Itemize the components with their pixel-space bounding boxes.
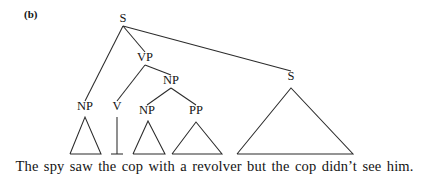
triangle-subject-np — [70, 117, 101, 154]
tree-diagram-svg: SVPNPNPVNPPPS — [0, 0, 429, 177]
triangle-object-np — [133, 121, 165, 154]
node-label-pp: PP — [189, 103, 203, 117]
tree-branch-s-to-vp — [123, 26, 145, 52]
node-label-subj-np: NP — [77, 99, 93, 113]
tree-branch-vp-to-v — [117, 65, 145, 101]
syntax-tree-figure: (b) SVPNPNPVNPPPS The spy saw the cop wi… — [0, 0, 429, 177]
node-label-root-s: S — [120, 11, 127, 25]
node-label-layer: SVPNPNPVNPPPS — [77, 11, 295, 117]
node-label-inner-np: NP — [139, 103, 155, 117]
stem-layer — [111, 117, 123, 154]
branch-layer — [85, 26, 291, 105]
sentence-line: The spy saw the cop with a revolver but … — [0, 158, 429, 175]
node-label-obj-np: NP — [163, 73, 179, 87]
tree-branch-s-to-np — [85, 26, 123, 101]
triangle-layer — [70, 88, 353, 154]
node-label-verb-v: V — [112, 99, 121, 113]
tree-branch-s-to-s — [123, 26, 291, 71]
triangle-right-s — [237, 88, 353, 154]
node-label-vp: VP — [137, 50, 153, 64]
triangle-pp — [172, 122, 222, 154]
node-label-right-s: S — [288, 69, 295, 83]
